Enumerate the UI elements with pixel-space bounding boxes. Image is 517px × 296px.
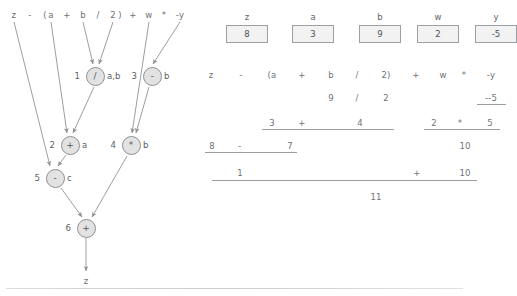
expr-token: - <box>28 10 31 20</box>
eval-token: * <box>462 70 466 80</box>
eval-token: 2 <box>431 118 437 128</box>
evaluation-panel: z 8 a 3 b 9 w 2 y -5 z - (a + b / 2) + w… <box>200 0 469 296</box>
eval-token: 5 <box>487 118 493 128</box>
node-index: 1 <box>75 71 80 81</box>
eval-underline <box>205 152 297 153</box>
variable-name: w <box>417 12 459 22</box>
expr-token: -y <box>176 10 185 20</box>
node-operator: - <box>46 169 65 188</box>
node-index: 6 <box>66 223 71 233</box>
expr-token: ) <box>118 10 122 20</box>
eval-underline <box>212 180 477 181</box>
variable-value-box[interactable]: 9 <box>359 25 401 43</box>
eval-token: * <box>458 118 462 128</box>
variable-value-box[interactable]: 3 <box>292 25 334 43</box>
eval-token: w <box>439 70 446 80</box>
eval-token: z <box>209 70 214 80</box>
node-label: a,b <box>107 71 120 81</box>
eval-token: -y <box>487 70 495 80</box>
eval-token: 3 <box>269 118 275 128</box>
node-label: c <box>67 173 72 183</box>
variable-name: b <box>359 12 401 22</box>
bottom-divider <box>6 288 463 289</box>
eval-token: 10 <box>459 141 470 151</box>
node-label: b <box>164 71 169 81</box>
expr-token: + <box>129 10 136 20</box>
variable-name: y <box>475 12 517 22</box>
variable-cell-w: w 2 <box>417 12 459 43</box>
node-index: 5 <box>35 173 40 183</box>
node-operator: + <box>61 136 80 155</box>
graph-edges <box>0 0 200 296</box>
eval-token: / <box>355 93 358 103</box>
variable-name: a <box>292 12 334 22</box>
eval-token: - <box>238 141 241 151</box>
eval-result: 11 <box>370 192 381 202</box>
node-index: 2 <box>50 140 55 150</box>
variable-cell-z: z 8 <box>226 12 268 43</box>
node-operator: / <box>86 67 105 86</box>
eval-token: --5 <box>485 93 497 103</box>
variable-name: z <box>226 12 268 22</box>
eval-underline <box>424 129 500 130</box>
eval-token: 8 <box>209 141 215 151</box>
expr-token: b <box>80 10 86 20</box>
eval-token: / <box>355 70 358 80</box>
graph-output-label: z <box>84 276 88 286</box>
eval-token: 9 <box>328 93 334 103</box>
eval-token: - <box>239 70 242 80</box>
eval-token: 10 <box>459 168 470 178</box>
expr-token: w <box>145 10 152 20</box>
node-operator: - <box>143 67 162 86</box>
eval-token: + <box>413 168 420 178</box>
expr-token: / <box>96 10 99 20</box>
node-operator: * <box>122 136 141 155</box>
expr-token: z <box>12 10 17 20</box>
variable-cell-a: a 3 <box>292 12 334 43</box>
eval-underline <box>262 129 394 130</box>
expr-token: + <box>63 10 70 20</box>
eval-token: (a <box>268 70 277 80</box>
eval-token: + <box>298 70 305 80</box>
eval-token: 7 <box>287 141 293 151</box>
eval-token: 2 <box>383 93 389 103</box>
expr-token: ( <box>43 10 47 20</box>
eval-token: 4 <box>357 118 363 128</box>
variable-cell-y: y -5 <box>475 12 517 43</box>
variable-value-box[interactable]: -5 <box>475 25 517 43</box>
eval-token: 1 <box>237 168 243 178</box>
eval-token: 2) <box>381 70 390 80</box>
eval-token: b <box>328 70 334 80</box>
variable-value-box[interactable]: 8 <box>226 25 268 43</box>
expr-token: * <box>162 10 167 20</box>
eval-token: + <box>412 70 419 80</box>
node-index: 3 <box>132 71 137 81</box>
expr-token: a <box>48 10 54 20</box>
variable-cell-b: b 9 <box>359 12 401 43</box>
eval-underline <box>477 104 506 105</box>
node-operator: + <box>77 219 96 238</box>
node-index: 4 <box>111 140 116 150</box>
eval-token: + <box>298 118 305 128</box>
expression-graph-panel: z - ( a + b / 2 ) + w * -y 1 / a,b 2 + a… <box>0 0 200 296</box>
expr-token: 2 <box>110 10 116 20</box>
variable-value-box[interactable]: 2 <box>417 25 459 43</box>
node-label: a <box>82 140 87 150</box>
node-label: b <box>143 140 148 150</box>
